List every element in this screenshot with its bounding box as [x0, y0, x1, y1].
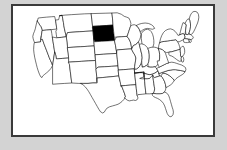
- state-ar[interactable]: [118, 69, 135, 86]
- state-wy[interactable]: [66, 31, 94, 48]
- state-vt[interactable]: [180, 23, 187, 36]
- state-sd[interactable]: [93, 25, 115, 42]
- us-states-map[interactable]: [13, 6, 213, 135]
- state-nm[interactable]: [69, 61, 98, 84]
- state-fl[interactable]: [152, 92, 173, 117]
- map-figure-frame: [11, 4, 215, 137]
- state-nd[interactable]: [91, 13, 113, 27]
- state-co[interactable]: [68, 46, 96, 62]
- state-me[interactable]: [189, 11, 199, 34]
